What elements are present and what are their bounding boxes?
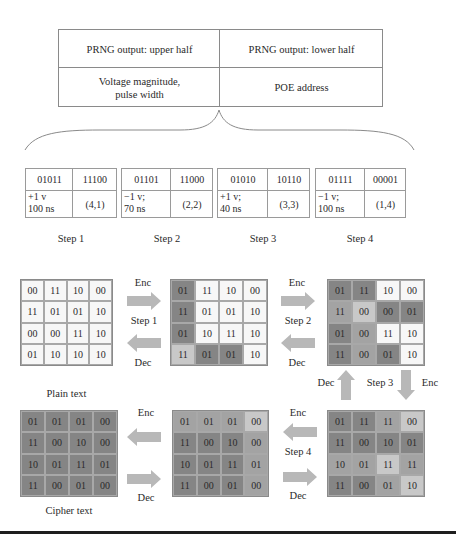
grid-cell: 01 [328,323,352,344]
grid-cell: 01 [197,454,221,475]
grid-cell: 00 [21,280,44,301]
grid-cell: 11 [328,432,352,453]
grid-cell: 00 [93,475,117,496]
pulse-width: 100 ns [28,203,54,215]
dec-label: Dec [314,377,338,388]
grid-cell: 00 [376,301,400,322]
pulse-params: +1 v; 40 ns [218,191,268,218]
address: (3,3) [268,191,310,218]
lower-bits: 10110 [268,169,310,191]
grid-cell: 11 [352,280,376,301]
grid-cell: 00 [21,323,44,344]
after-step3-grid: 01111100110010011001111111000110 [327,410,425,497]
grid-cell: 01 [45,411,69,432]
pulse-width: 100 ns [318,203,344,215]
grid-cell: 10 [400,475,424,496]
voltage: −1 v; [318,191,339,203]
bottom-rule [0,531,456,534]
grid-cell: 01 [171,280,195,301]
grid-cell: 10 [376,432,400,453]
step-label: Step 1 [122,315,166,326]
grid-cell: 01 [328,280,352,301]
grid-cell: 10 [89,301,112,322]
lower-bits: 00001 [365,169,406,191]
step-label: Step 3 [358,377,402,388]
after-step1-grid: 01111000110101100110111011010110 [170,279,268,366]
arrow-left-icon [283,423,317,441]
grid-cell: 01 [44,301,67,322]
grid-cell: 01 [93,454,117,475]
grid-cell: 10 [221,432,245,453]
step-label-2: Step 2 [127,233,207,244]
grid-cell: 11 [173,432,197,453]
grid-cell: 11 [21,432,45,453]
cell-voltage-pulse: Voltage magnitude, pulse width [59,68,220,107]
divider [364,169,365,217]
enc-label: Enc [280,407,316,418]
grid-cell: 10 [89,344,112,365]
voltage: −1 v; [124,191,145,203]
divider [267,169,268,217]
grid-cell: 11 [328,301,352,322]
arrow-right-icon [127,292,161,310]
curly-brace-icon [0,105,456,155]
grid-cell: 00 [400,411,424,432]
grid-cell: 00 [352,432,376,453]
divider [122,190,213,191]
grid-cell: 11 [376,411,400,432]
divider [219,30,220,107]
grid-cell: 10 [67,280,90,301]
grid-cell: 11 [21,301,44,322]
cipher-text-grid: 01010100110010001001110111000100 [20,410,118,497]
grid-cell: 00 [93,432,117,453]
grid-cell: 00 [197,432,221,453]
grid-cell: 11 [376,323,400,344]
upper-bits: 01011 [26,169,73,191]
grid-cell: 10 [376,280,400,301]
grid-cell: 01 [400,432,424,453]
grid-cell: 01 [67,301,90,322]
grid-cell: 00 [352,301,376,322]
divider [59,67,383,68]
address: (4,1) [73,191,117,218]
cipher-text-label: Cipher text [20,505,118,516]
grid-cell: 11 [69,454,93,475]
grid-cell: 11 [328,344,352,365]
grid-cell: 01 [219,301,243,322]
grid-cell: 11 [44,280,67,301]
grid-cell: 10 [195,323,219,344]
grid-cell: 10 [400,344,424,365]
grid-cell: 10 [44,344,67,365]
grid-cell: 01 [69,411,93,432]
arrow-right-icon [127,470,161,488]
grid-cell: 10 [243,301,267,322]
grid-cell: 11 [221,454,245,475]
upper-bits: 01111 [316,169,365,191]
grid-cell: 01 [376,344,400,365]
grid-cell: 00 [89,280,112,301]
divider [218,190,310,191]
grid-cell: 00 [44,323,67,344]
plain-text-grid: 00111000110101100000111001101010 [20,279,113,366]
grid-cell: 01 [195,301,219,322]
grid-cell: 00 [45,475,69,496]
grid-cell: 01 [21,411,45,432]
grid-cell: 11 [171,301,195,322]
grid-cell: 11 [21,475,45,496]
divider [72,169,73,217]
grid-cell: 01 [69,475,93,496]
header-upper-half: PRNG output: upper half [59,30,220,68]
upper-bits: 01010 [218,169,268,191]
grid-cell: 01 [173,411,197,432]
grid-cell: 00 [352,344,376,365]
grid-cell: 11 [219,323,243,344]
pulse-params: −1 v; 70 ns [122,191,171,218]
enc-label: Enc [279,277,315,288]
grid-cell: 01 [400,301,424,322]
cell-line: pulse width [115,88,164,101]
grid-cell: 10 [243,344,267,365]
pulse-width: 70 ns [124,203,145,215]
grid-cell: 01 [376,475,400,496]
arrow-right-icon [283,468,317,486]
arrow-left-icon [127,428,161,446]
